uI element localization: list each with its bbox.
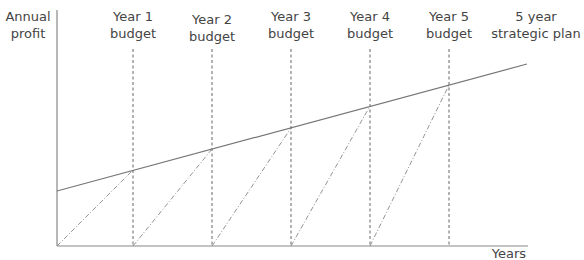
year-1-label: Year 1 budget bbox=[103, 8, 163, 42]
year-2-label: Year 2 budget bbox=[182, 11, 242, 45]
year-5-label: Year 5 budget bbox=[419, 8, 479, 42]
year-2-budget-ramp bbox=[133, 149, 212, 246]
strategic-plan-label: 5 year strategic plan bbox=[488, 8, 584, 42]
year-5-label-line1: Year 5 bbox=[419, 8, 479, 25]
year-1-label-line2: budget bbox=[103, 25, 163, 42]
y-axis-label-line2: profit bbox=[2, 25, 54, 42]
year-2-label-line1: Year 2 bbox=[182, 11, 242, 28]
y-axis-label: Annual profit bbox=[2, 8, 54, 42]
year-3-label-line2: budget bbox=[261, 25, 321, 42]
x-axis-label: Years bbox=[486, 245, 532, 260]
year-4-label-line1: Year 4 bbox=[340, 8, 400, 25]
year-5-budget-ramp bbox=[370, 85, 449, 246]
year-4-budget-ramp bbox=[291, 106, 370, 246]
year-1-label-line1: Year 1 bbox=[103, 8, 163, 25]
year-4-label: Year 4 budget bbox=[340, 8, 400, 42]
strategic-plan-label-line1: 5 year bbox=[488, 8, 584, 25]
year-3-label: Year 3 budget bbox=[261, 8, 321, 42]
year-3-label-line1: Year 3 bbox=[261, 8, 321, 25]
year-5-label-line2: budget bbox=[419, 25, 479, 42]
y-axis-label-line1: Annual bbox=[2, 8, 54, 25]
year-1-budget-ramp bbox=[57, 170, 133, 246]
year-4-label-line2: budget bbox=[340, 25, 400, 42]
year-2-label-line2: budget bbox=[182, 28, 242, 45]
strategic-plan-line bbox=[57, 64, 527, 191]
strategic-plan-label-line2: strategic plan bbox=[488, 25, 584, 42]
